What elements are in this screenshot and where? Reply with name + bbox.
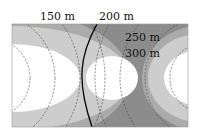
- center-white-lobe: [86, 56, 138, 100]
- label-150m: 150 m: [40, 10, 75, 23]
- label-200m: 200 m: [99, 10, 134, 23]
- label-250m: 250 m: [125, 31, 160, 44]
- label-300m: 300 m: [125, 47, 160, 60]
- interference-diagram: 150 m 200 m 250 m 300 m: [0, 0, 198, 139]
